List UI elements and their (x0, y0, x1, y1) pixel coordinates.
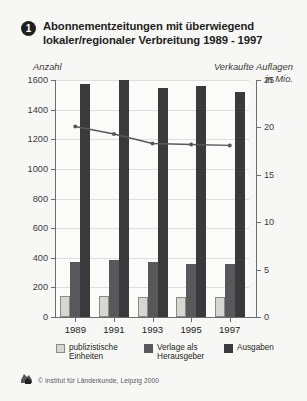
right-tick-mark (257, 317, 261, 318)
right-axis-line (256, 80, 257, 318)
left-axis-caption: Anzahl (33, 61, 62, 73)
left-tick-mark (51, 169, 55, 170)
left-tick-label: 200 (8, 282, 48, 292)
x-tick-mark (114, 318, 115, 322)
x-tick-label: 1989 (55, 324, 95, 335)
right-tick-mark (257, 127, 261, 128)
legend-label: Ausgaben (237, 343, 274, 352)
left-tick-mark (51, 287, 55, 288)
left-tick-mark (51, 228, 55, 229)
legend-item: Verlage als Herausgeber (144, 343, 204, 362)
square-swatch-icon (56, 344, 65, 353)
chart-footer: © Institut für Länderkunde, Leipzig 2000 (20, 371, 159, 389)
right-tick-label: 10 (264, 217, 274, 227)
plot-area (56, 80, 249, 317)
legend-label: Verlage als Herausgeber (157, 343, 204, 362)
line-data-point (112, 132, 116, 136)
legend-item: Ausgaben (224, 343, 274, 353)
title-text: Abonnementzeitungen mit überwiegend loka… (43, 20, 291, 47)
line-data-point (228, 143, 232, 147)
left-tick-label: 1200 (8, 134, 48, 144)
left-tick-label: 1000 (8, 164, 48, 174)
right-tick-label: 25 (264, 75, 274, 85)
left-tick-label: 1400 (8, 105, 48, 115)
line-data-point (73, 124, 77, 128)
right-tick-label: 5 (264, 265, 269, 275)
left-tick-mark (51, 199, 55, 200)
right-tick-mark (257, 175, 261, 176)
left-tick-mark (51, 258, 55, 259)
right-tick-mark (257, 80, 261, 81)
right-tick-label: 0 (264, 312, 269, 322)
chart-title: 1 Abonnementzeitungen mit überwiegend lo… (21, 20, 291, 47)
x-tick-label: 1997 (210, 324, 250, 335)
square-swatch-icon (224, 344, 233, 353)
square-swatch-icon (144, 344, 153, 353)
right-tick-label: 15 (264, 170, 274, 180)
legend-label: publizistische Einheiten (69, 343, 118, 362)
left-tick-label: 800 (8, 194, 48, 204)
right-tick-mark (257, 222, 261, 223)
institut-fuer-laenderkunde-logo-icon (20, 371, 33, 389)
line-data-point (151, 142, 155, 146)
x-tick-label: 1993 (133, 324, 173, 335)
copyright-text: © Institut für Länderkunde, Leipzig 2000 (38, 377, 159, 384)
left-tick-label: 400 (8, 253, 48, 263)
left-tick-label: 0 (8, 312, 48, 322)
chart-figure: 1 Abonnementzeitungen mit überwiegend lo… (0, 0, 307, 401)
line-series-layer (56, 80, 249, 317)
x-tick-label: 1995 (171, 324, 211, 335)
x-tick-label: 1991 (94, 324, 134, 335)
x-tick-mark (75, 318, 76, 322)
left-tick-mark (51, 139, 55, 140)
bottom-axis-line (55, 317, 257, 318)
right-tick-label: 20 (264, 122, 274, 132)
left-tick-mark (51, 80, 55, 81)
left-tick-label: 1600 (8, 75, 48, 85)
x-tick-mark (230, 318, 231, 322)
right-tick-mark (257, 270, 261, 271)
left-tick-mark (51, 317, 55, 318)
x-tick-mark (153, 318, 154, 322)
x-tick-mark (191, 318, 192, 322)
left-tick-label: 600 (8, 223, 48, 233)
legend-item: publizistische Einheiten (56, 343, 118, 362)
title-number-badge: 1 (21, 21, 36, 36)
left-tick-mark (51, 110, 55, 111)
line-data-point (189, 142, 193, 146)
left-axis-line (55, 80, 56, 318)
